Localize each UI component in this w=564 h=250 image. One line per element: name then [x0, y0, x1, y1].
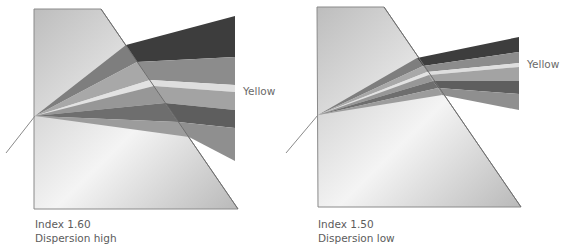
dispersion-label: Dispersion low: [318, 231, 395, 245]
dispersion-label: Dispersion high: [35, 231, 117, 245]
incident-ray: [6, 116, 35, 153]
dispersion-diagram: [0, 0, 564, 250]
index-label: Index 1.60: [35, 217, 91, 231]
yellow-band-label: Yellow: [527, 57, 559, 71]
incident-ray: [286, 115, 318, 153]
prism-low-dispersion: [286, 7, 521, 207]
prism-high-dispersion: [6, 9, 238, 209]
index-label: Index 1.50: [318, 217, 374, 231]
band-violet: [126, 16, 235, 62]
yellow-band-label: Yellow: [243, 84, 275, 98]
